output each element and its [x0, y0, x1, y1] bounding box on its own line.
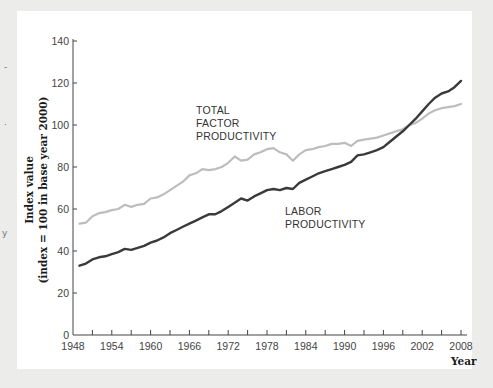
y-tick-label: 120: [51, 77, 69, 89]
x-tick-label: 1960: [139, 340, 163, 352]
x-tick-label: 1966: [178, 340, 202, 352]
x-tick-label: 1978: [255, 340, 279, 352]
labor-label-line: PRODUCTIVITY: [285, 218, 366, 231]
y-tick-label: 100: [51, 119, 69, 131]
y-tick-label: 140: [51, 35, 69, 47]
y-axis-title-line-2: (index = 100 in base year 2000): [36, 96, 50, 283]
labor-label-line: LABOR: [285, 205, 366, 218]
y-tick-label: 40: [57, 245, 69, 257]
tfp-series-label: TOTAL FACTOR PRODUCTIVITY: [196, 104, 277, 143]
labor-series-label: LABOR PRODUCTIVITY: [285, 205, 366, 231]
tfp-label-line: PRODUCTIVITY: [196, 130, 277, 143]
x-tick-label: 2008: [449, 340, 473, 352]
x-tick-label: 1984: [294, 340, 318, 352]
tfp-label-line: FACTOR: [196, 117, 277, 130]
x-tick-label: 1954: [100, 340, 124, 352]
y-axis-title-line-1: Index value: [22, 96, 36, 283]
line-chart: 0204060801001201401948195419601966197219…: [0, 0, 493, 388]
y-tick-label: 20: [57, 287, 69, 299]
y-axis-title: Index value (index = 100 in base year 20…: [22, 96, 50, 283]
y-tick-label: 80: [57, 161, 69, 173]
x-tick-label: 1990: [333, 340, 357, 352]
tfp-label-line: TOTAL: [196, 104, 277, 117]
x-tick-label: 1948: [61, 340, 85, 352]
x-tick-label: 1996: [372, 340, 396, 352]
x-axis-title: Year: [451, 355, 477, 367]
y-tick-label: 60: [57, 203, 69, 215]
x-tick-label: 2002: [411, 340, 435, 352]
x-tick-label: 1972: [217, 340, 241, 352]
